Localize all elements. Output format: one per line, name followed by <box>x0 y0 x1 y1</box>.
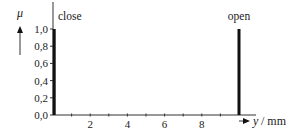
y-axis-label: μ <box>16 6 23 20</box>
y-tick-label: 0,2 <box>34 92 48 104</box>
labels: 0,00,20,40,60,81,02468closeopenμy/ mm <box>16 6 287 130</box>
annotation-open: open <box>228 10 251 23</box>
y-tick-label: 0,0 <box>34 109 48 121</box>
arrow-right-icon <box>243 118 250 124</box>
bars <box>54 29 239 115</box>
x-tick-label: 8 <box>199 118 205 130</box>
y-tick-label: 0,6 <box>34 57 48 69</box>
arrow-up-icon <box>17 26 23 33</box>
x-tick-label: 2 <box>87 118 93 130</box>
annotation-close: close <box>58 10 82 22</box>
chart-canvas: 0,00,20,40,60,81,02468closeopenμy/ mm <box>0 0 301 139</box>
x-axis-label-unit: / mm <box>261 114 287 128</box>
x-tick-label: 6 <box>162 118 168 130</box>
y-tick-label: 1,0 <box>34 23 48 35</box>
x-axis-label-var: y <box>252 114 259 128</box>
x-tick-label: 4 <box>125 118 131 130</box>
y-tick-label: 0,8 <box>34 40 48 52</box>
membership-function-chart: 0,00,20,40,60,81,02468closeopenμy/ mm <box>0 0 301 139</box>
y-tick-label: 0,4 <box>34 75 48 87</box>
